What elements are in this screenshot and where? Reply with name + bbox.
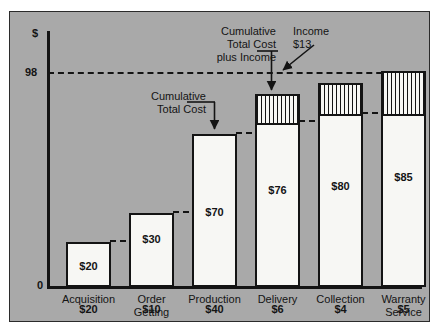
bar-value-acquisition: $20 bbox=[68, 260, 109, 272]
bar-income-warranty-service bbox=[383, 73, 424, 116]
annotation-cumulative-plus-income-line2: Total Cost bbox=[156, 38, 276, 51]
annotation-cumulative-total-cost-line1: Cumulative bbox=[116, 90, 206, 103]
annotation-income-line2: $13 bbox=[293, 38, 329, 51]
bar-value-warranty-service: $85 bbox=[383, 171, 424, 183]
bar-order-getting: $30 bbox=[129, 213, 174, 287]
bar-value-production: $70 bbox=[194, 206, 235, 218]
bar-value-collection: $80 bbox=[320, 180, 361, 192]
bar-value-order-getting: $30 bbox=[131, 233, 172, 245]
annotation-cumulative-total-cost: Cumulative Total Cost bbox=[116, 90, 206, 116]
bar-value-delivery: $76 bbox=[257, 184, 298, 196]
bar-warranty-service: $85 bbox=[381, 71, 426, 287]
y-axis-unit-label: $ bbox=[32, 28, 38, 39]
annotation-cumulative-plus-income-line1: Cumulative bbox=[156, 25, 276, 38]
y-axis-line bbox=[47, 31, 50, 288]
bar-collection: $80 bbox=[318, 83, 363, 287]
bar-income-delivery bbox=[257, 96, 298, 125]
annotation-cumulative-plus-income: Cumulative Total Cost plus Income bbox=[156, 25, 276, 64]
annotation-income: Income $13 bbox=[293, 25, 329, 51]
bar-acquisition: $20 bbox=[66, 242, 111, 287]
chart-figure: $ 98 0 $20 $30 $70 $76 bbox=[0, 0, 439, 333]
bar-production: $70 bbox=[192, 134, 237, 287]
y-axis-tick-0: 0 bbox=[37, 280, 43, 291]
annotation-cumulative-total-cost-line2: Total Cost bbox=[116, 103, 206, 116]
increment-warranty-service: $5 bbox=[365, 303, 439, 316]
annotation-cumulative-plus-income-line3: plus Income bbox=[156, 51, 276, 64]
bar-delivery: $76 bbox=[255, 94, 300, 287]
annotation-income-line1: Income bbox=[293, 25, 329, 38]
chart-panel: $ 98 0 $20 $30 $70 $76 bbox=[9, 11, 430, 322]
reference-line-98 bbox=[48, 72, 422, 74]
y-axis-tick-98: 98 bbox=[25, 67, 37, 78]
bar-income-collection bbox=[320, 85, 361, 116]
